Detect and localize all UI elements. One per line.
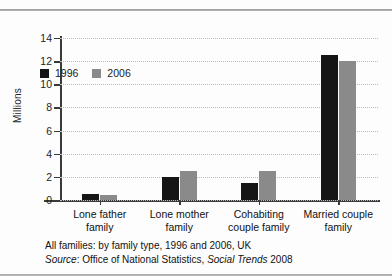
x-axis-label: Lone motherfamily — [140, 208, 220, 233]
source-body: Office of National Statistics, — [82, 254, 207, 265]
y-axis-tick-label: 4 — [26, 149, 52, 159]
bar-group — [241, 38, 276, 200]
x-axis-label-line: Married couple — [299, 208, 379, 221]
x-axis-label: Lone fatherfamily — [60, 208, 140, 233]
x-axis-label-line: family — [299, 221, 379, 234]
x-axis-label-line: Lone mother — [140, 208, 220, 221]
x-axis-label-line: couple family — [219, 221, 299, 234]
bar-group — [82, 38, 117, 200]
bar-1996-3 — [321, 55, 338, 200]
caption-source: Source: Office of National Statistics, S… — [45, 253, 293, 267]
caption-line-1: All families: by family type, 1996 and 2… — [45, 239, 293, 253]
bottom-divider — [0, 274, 392, 276]
bar-1996-1 — [162, 177, 179, 200]
chart-page: Millions 02468101214 1996 2006 Lone fath… — [0, 0, 392, 280]
y-axis-title: Millions — [12, 71, 23, 141]
bar-1996-2 — [241, 183, 258, 200]
bar-chart: Millions 02468101214 1996 2006 Lone fath… — [0, 12, 392, 237]
top-divider — [0, 9, 392, 11]
bar-2006-1 — [180, 171, 197, 200]
y-axis-tick-label: 14 — [26, 33, 52, 43]
x-axis-tick — [100, 200, 101, 205]
x-axis-labels: Lone fatherfamilyLone motherfamilyCohabi… — [44, 208, 388, 242]
source-year: 2008 — [268, 254, 293, 265]
bar-2006-3 — [339, 61, 356, 200]
x-axis-label: Married couplefamily — [299, 208, 379, 233]
y-axis-tick-label: 6 — [26, 126, 52, 136]
y-axis-tick-label: 12 — [26, 56, 52, 66]
x-axis-label-line: Cohabiting — [219, 208, 299, 221]
x-axis-label-line: family — [140, 221, 220, 234]
x-axis-tick — [259, 200, 260, 205]
legend-swatch-1996 — [40, 69, 49, 78]
x-axis-tick — [338, 200, 339, 205]
y-axis-tick-label: 10 — [26, 79, 52, 89]
x-axis-label-line: Lone father — [60, 208, 140, 221]
bar-2006-2 — [259, 171, 276, 200]
bar-group — [162, 38, 197, 200]
y-axis-tick-label: 0 — [26, 195, 52, 205]
x-axis-label-line: family — [60, 221, 140, 234]
source-publication: Social Trends — [207, 254, 267, 265]
bar-groups — [60, 38, 378, 200]
chart-caption: All families: by family type, 1996 and 2… — [45, 239, 293, 266]
y-axis-tick-label: 8 — [26, 102, 52, 112]
x-axis-ticks — [60, 200, 378, 205]
y-axis-tick-label: 2 — [26, 172, 52, 182]
bar-group — [321, 38, 356, 200]
x-axis-label: Cohabitingcouple family — [219, 208, 299, 233]
x-axis-tick — [179, 200, 180, 205]
source-label: Source — [45, 254, 77, 265]
